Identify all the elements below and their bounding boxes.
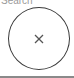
search-label: Search	[1, 0, 33, 6]
divider	[0, 76, 74, 78]
close-icon	[34, 34, 44, 44]
close-button[interactable]	[8, 7, 70, 70]
